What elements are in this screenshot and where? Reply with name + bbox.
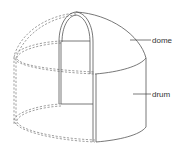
drum-bottom-curve (96, 127, 146, 142)
visible-lines (59, 12, 146, 142)
dome-base-curve (95, 58, 146, 74)
arch-outer (59, 12, 93, 104)
arch-inner (62, 15, 90, 42)
dome-hidden-outline (14, 13, 76, 56)
lower-band-ellipse (14, 104, 95, 142)
label-drum: drum (133, 90, 171, 99)
drum-label: drum (152, 90, 171, 99)
dome-drum-diagram: dome drum (0, 0, 191, 157)
hidden-lines (14, 13, 95, 142)
dome-label: dome (152, 36, 173, 45)
